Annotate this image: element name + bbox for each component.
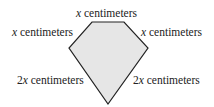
label-upper-right: x centimeters [141,27,202,39]
pentagon-shape [69,22,148,104]
label-upper-left: x centimeters [12,27,73,39]
label-lower-left: 2x centimeters [17,75,84,87]
label-top: x centimeters [76,8,137,20]
label-lower-right: 2x centimeters [133,75,200,87]
